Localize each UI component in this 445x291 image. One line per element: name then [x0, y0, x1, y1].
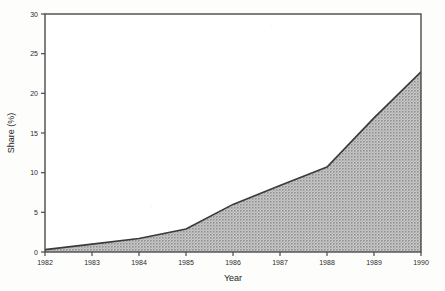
x-axis: 198219831984198519861987198819891990 [37, 252, 429, 266]
x-axis-tick-label: 1989 [366, 259, 382, 266]
chart-figure: 051015202530 198219831984198519861987198… [0, 0, 445, 291]
y-axis-tick-label: 25 [30, 50, 38, 57]
y-axis: 051015202530 [30, 11, 45, 256]
y-axis-tick-label: 10 [30, 169, 38, 176]
y-axis-title: Share (%) [6, 113, 16, 154]
x-axis-tick-label: 1982 [37, 259, 53, 266]
x-axis-tick-label: 1983 [84, 259, 100, 266]
x-axis-title: Year [224, 273, 242, 283]
x-axis-tick-label: 1985 [178, 259, 194, 266]
y-axis-tick-label: 15 [30, 130, 38, 137]
y-axis-tick-label: 5 [34, 209, 38, 216]
y-axis-tick-label: 0 [34, 249, 38, 256]
x-axis-tick-label: 1987 [272, 259, 288, 266]
x-axis-tick-label: 1984 [131, 259, 147, 266]
y-axis-tick-label: 30 [30, 11, 38, 18]
x-axis-tick-label: 1986 [225, 259, 241, 266]
x-axis-tick-label: 1990 [413, 259, 429, 266]
area-chart: 051015202530 198219831984198519861987198… [0, 0, 445, 291]
x-axis-tick-label: 1988 [319, 259, 335, 266]
y-axis-tick-label: 20 [30, 90, 38, 97]
